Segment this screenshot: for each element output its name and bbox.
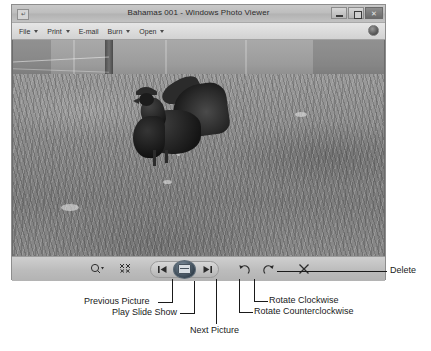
- leader-rotate-ccw-horizontal: [239, 312, 253, 313]
- menu-item-open-label: Open: [139, 28, 156, 35]
- annotation-rotate-counterclockwise: Rotate Counterclockwise: [254, 306, 354, 316]
- menu-item-print-label: Print: [47, 28, 61, 35]
- help-icon[interactable]: [368, 25, 379, 36]
- window-controls: ✕: [331, 7, 383, 19]
- play-slideshow-icon: [178, 264, 191, 274]
- rooster-breast: [133, 116, 165, 158]
- magnifier-icon: [90, 263, 104, 275]
- close-button[interactable]: ✕: [365, 7, 383, 19]
- rooster-head: [139, 93, 154, 106]
- leader-play-slide-show-vertical: [194, 281, 195, 314]
- fit-to-window-icon: [119, 263, 131, 275]
- next-picture-icon: [202, 265, 213, 274]
- zoom-button[interactable]: [84, 261, 110, 278]
- menu-item-print[interactable]: Print: [47, 28, 69, 35]
- previous-picture-button[interactable]: [152, 263, 172, 276]
- chevron-down-icon: [34, 30, 38, 33]
- menu-item-email[interactable]: E-mail: [79, 28, 99, 35]
- rooster-leg: [165, 150, 168, 163]
- chevron-down-icon: [66, 30, 70, 33]
- leader-rotate-cw-horizontal: [254, 301, 268, 302]
- rotate-clockwise-icon: [262, 263, 275, 276]
- maximize-icon: [354, 11, 362, 19]
- leader-rotate-cw-vertical: [254, 279, 255, 301]
- fit-to-window-button[interactable]: [115, 261, 134, 278]
- delete-icon: [298, 263, 310, 275]
- photo-viewer-window: ↵ Bahamas 001 - Windows Photo Viewer ✕ F…: [11, 4, 386, 280]
- rotate-clockwise-button[interactable]: [259, 261, 278, 278]
- maximize-button[interactable]: [348, 7, 364, 19]
- photo-stone: [295, 112, 307, 117]
- leader-play-slide-show-horizontal: [180, 313, 195, 314]
- navigation-group: [150, 261, 219, 278]
- menu-item-burn-label: Burn: [108, 28, 123, 35]
- annotation-previous-picture: Previous Picture: [84, 296, 150, 306]
- rotate-counterclockwise-button[interactable]: [235, 261, 254, 278]
- close-icon: ✕: [366, 8, 382, 18]
- annotation-rotate-clockwise: Rotate Clockwise: [269, 295, 339, 305]
- photo-stage: [12, 40, 385, 256]
- annotation-delete: Delete: [390, 265, 416, 275]
- photo-image: [13, 40, 384, 256]
- window-title: Bahamas 001 - Windows Photo Viewer: [12, 8, 385, 17]
- rooster-beak: [133, 98, 139, 104]
- minimize-icon: [336, 15, 343, 17]
- delete-button[interactable]: [294, 261, 313, 278]
- play-slideshow-button[interactable]: [173, 260, 196, 279]
- rooster-leg: [153, 150, 156, 166]
- menu-bar: File Print E-mail Burn Open: [12, 23, 385, 40]
- previous-picture-icon: [157, 265, 168, 274]
- leader-previous-picture-vertical: [172, 279, 173, 303]
- title-bar: ↵ Bahamas 001 - Windows Photo Viewer ✕: [12, 5, 385, 23]
- menu-item-open[interactable]: Open: [139, 28, 164, 35]
- menu-item-file-label: File: [19, 28, 30, 35]
- chevron-down-icon: [160, 30, 164, 33]
- annotation-next-picture: Next Picture: [190, 325, 239, 335]
- toolbar-buttons: [84, 261, 313, 278]
- menu-item-file[interactable]: File: [19, 28, 38, 35]
- rotate-counterclockwise-icon: [238, 263, 251, 276]
- menu-item-email-label: E-mail: [79, 28, 99, 35]
- minimize-button[interactable]: [331, 7, 347, 19]
- annotation-play-slide-show: Play Slide Show: [112, 307, 177, 317]
- leader-previous-picture-horizontal: [158, 302, 173, 303]
- photo-toolbar: [12, 256, 385, 281]
- leader-rotate-ccw-vertical: [239, 279, 240, 312]
- photo-stone: [163, 180, 172, 184]
- menu-item-burn[interactable]: Burn: [108, 28, 131, 35]
- next-picture-button[interactable]: [197, 263, 217, 276]
- leader-next-picture-vertical: [216, 279, 217, 324]
- photo-rooster: [121, 80, 241, 180]
- photo-stone: [61, 204, 79, 211]
- chevron-down-icon: [126, 30, 130, 33]
